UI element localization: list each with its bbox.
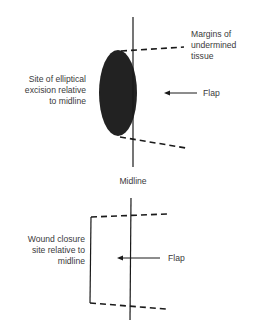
closure-diagram bbox=[90, 198, 167, 320]
arrow-left-icon bbox=[117, 256, 123, 261]
arrow-left-icon bbox=[164, 91, 170, 96]
closure-bracket-vertical bbox=[90, 217, 91, 303]
closure-label-line: Wound closure bbox=[28, 234, 85, 245]
excision-label-line: Site of elliptical bbox=[25, 74, 86, 85]
excision-diagram bbox=[99, 17, 197, 167]
flap-label-top: Flap bbox=[203, 88, 220, 99]
excision-label-line: to midline bbox=[25, 96, 86, 107]
excision-label-line: excision relative bbox=[25, 85, 86, 96]
margins-label-line: tissue bbox=[191, 51, 236, 62]
closure-label-line: midline bbox=[28, 256, 85, 267]
closure-dashed-line-upper bbox=[91, 214, 167, 217]
margins-label-line: Margins of bbox=[191, 29, 236, 40]
elliptical-excision bbox=[99, 50, 137, 136]
margin-dashed-line-lower bbox=[120, 137, 186, 148]
closure-dashed-line-lower bbox=[90, 303, 166, 309]
closure-site-label: Wound closure site relative to midline bbox=[28, 234, 85, 267]
closure-label-line: site relative to bbox=[28, 245, 85, 256]
excision-site-label: Site of elliptical excision relative to … bbox=[25, 74, 86, 107]
margins-label: Margins of undermined tissue bbox=[191, 29, 236, 62]
midline-bottom bbox=[130, 198, 131, 320]
midline-label: Midline bbox=[113, 176, 153, 187]
flap-label-bottom: Flap bbox=[168, 253, 185, 264]
margin-dashed-line-upper bbox=[121, 47, 184, 51]
margins-label-line: undermined bbox=[191, 40, 236, 51]
